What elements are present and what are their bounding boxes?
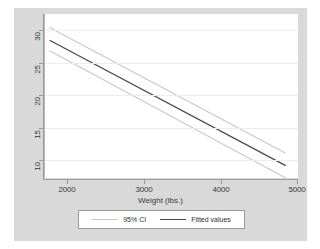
figure-background: 30 25 20 15 10 2000 3000 4000 5000 Weigh… — [14, 8, 307, 241]
gridline-y-10 — [45, 160, 298, 161]
y-axis-line — [43, 14, 44, 180]
legend-swatch-ci-icon — [92, 219, 118, 220]
gridline-y-20 — [45, 95, 298, 96]
gridline-y-30 — [45, 30, 298, 31]
plot-area — [44, 14, 298, 178]
chart-legend: 95% CI Fitted values — [78, 210, 245, 229]
y-tick-label-20: 20 — [33, 95, 42, 109]
gridline-y-25 — [45, 63, 298, 64]
x-axis-title: Weight (lbs.) — [14, 196, 307, 205]
ci-upper-line — [50, 27, 286, 153]
gridline-y-15 — [45, 128, 298, 129]
x-axis-line — [43, 179, 298, 180]
x-tick-label-2000: 2000 — [53, 185, 81, 194]
y-tick-label-30: 30 — [33, 30, 42, 44]
legend-item-ci[interactable]: 95% CI — [92, 216, 146, 223]
x-tick-label-5000: 5000 — [283, 185, 311, 194]
x-tick-4000 — [221, 180, 222, 184]
fitted-values-line — [50, 40, 286, 165]
x-tick-label-3000: 3000 — [130, 185, 158, 194]
legend-item-fitted[interactable]: Fitted values — [160, 216, 231, 223]
ci-lower-line — [50, 51, 286, 178]
y-tick-label-10: 10 — [33, 160, 42, 174]
legend-label-fitted: Fitted values — [191, 216, 231, 223]
legend-label-ci: 95% CI — [123, 216, 146, 223]
x-tick-3000 — [144, 180, 145, 184]
legend-swatch-fitted-icon — [160, 219, 186, 220]
y-tick-label-15: 15 — [33, 128, 42, 142]
y-tick-label-25: 25 — [33, 63, 42, 77]
x-tick-label-4000: 4000 — [207, 185, 235, 194]
x-tick-2000 — [67, 180, 68, 184]
plot-lines — [45, 14, 298, 178]
x-tick-5000 — [297, 180, 298, 184]
